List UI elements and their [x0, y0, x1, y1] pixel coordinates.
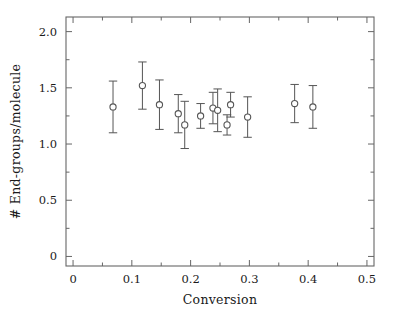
y-tick-label: 1.5: [39, 81, 57, 95]
y-tick-label: 0.5: [39, 193, 57, 207]
figure-container: 00.10.20.30.40.500.51.01.52.0Conversion#…: [0, 0, 399, 319]
x-tick-label: 0.3: [240, 272, 258, 286]
data-point-marker: [224, 122, 230, 128]
data-point-marker: [198, 113, 204, 119]
x-tick-label: 0.1: [123, 272, 141, 286]
x-tick-label: 0.5: [358, 272, 376, 286]
x-tick-label: 0: [69, 272, 76, 286]
y-tick-label: 1.0: [39, 137, 57, 151]
data-point-marker: [156, 102, 162, 108]
scatter-plot: 00.10.20.30.40.500.51.01.52.0Conversion#…: [0, 0, 399, 319]
y-tick-label: 0: [50, 249, 57, 263]
data-point-marker: [110, 104, 116, 110]
plot-frame: [66, 17, 374, 266]
data-point-marker: [310, 104, 316, 110]
x-axis-title: Conversion: [183, 292, 258, 307]
y-axis-title: # End-groups/molecule: [8, 64, 23, 220]
data-point-marker: [175, 111, 181, 117]
data-point-marker: [292, 100, 298, 106]
data-point-marker: [215, 107, 221, 113]
y-tick-label: 2.0: [39, 25, 57, 39]
data-point-marker: [245, 114, 251, 120]
data-point-marker: [227, 102, 233, 108]
x-tick-label: 0.4: [299, 272, 317, 286]
data-point-marker: [182, 122, 188, 128]
data-point-marker: [139, 82, 145, 88]
x-tick-label: 0.2: [181, 272, 199, 286]
